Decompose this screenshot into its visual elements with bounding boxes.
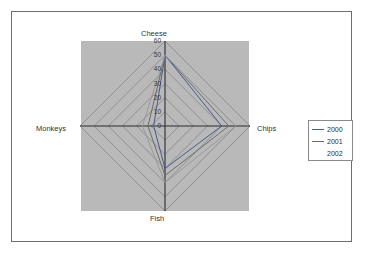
tick-label: 10	[147, 109, 161, 116]
radar-series-lines	[142, 55, 236, 183]
tick-label: 50	[147, 52, 161, 59]
legend-item[interactable]: 2001	[311, 136, 350, 147]
legend-label: 2002	[327, 150, 343, 157]
tick-label: 0	[147, 123, 161, 130]
axis-label-fish: Fish	[150, 215, 164, 223]
legend-item[interactable]: 2000	[311, 124, 350, 135]
legend-item[interactable]: 2002	[311, 148, 350, 159]
chart-frame: Cheese Chips Fish Monkeys 6050403020100 …	[11, 11, 352, 242]
chart-screenshot: Cheese Chips Fish Monkeys 6050403020100 …	[0, 0, 366, 257]
tick-label: 30	[147, 81, 161, 88]
legend-line-swatch	[312, 129, 324, 130]
series-polygon	[154, 55, 222, 168]
series-polygon	[148, 55, 229, 175]
legend-label: 2000	[327, 126, 343, 133]
tick-label: 60	[147, 38, 161, 45]
legend-line-swatch	[312, 153, 324, 154]
axis-label-monkeys: Monkeys	[36, 125, 66, 133]
tick-label: 20	[147, 95, 161, 102]
axis-label-chips: Chips	[257, 125, 276, 133]
tick-label: 40	[147, 66, 161, 73]
legend-line-swatch	[312, 141, 324, 142]
radar-axis-spokes	[80, 41, 250, 211]
legend-label: 2001	[327, 138, 343, 145]
legend-entries: 200020012002	[311, 124, 350, 159]
chart-legend: 200020012002	[308, 120, 353, 161]
